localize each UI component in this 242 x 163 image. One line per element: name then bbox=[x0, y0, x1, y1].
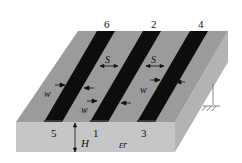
height-label: H bbox=[80, 137, 90, 149]
port-label-3: 3 bbox=[141, 127, 147, 139]
width-label-3: w bbox=[140, 84, 147, 95]
port-label-6: 6 bbox=[104, 18, 110, 30]
port-label-2: 2 bbox=[151, 18, 157, 30]
strip-edge bbox=[44, 120, 62, 122]
width-label-2: w bbox=[81, 104, 88, 115]
strip-edge bbox=[137, 120, 155, 122]
port-label-1: 1 bbox=[93, 127, 99, 139]
spacing-label-1: S bbox=[105, 54, 110, 65]
microstrip-diagram: 6 2 4 5 1 3 S S w w w H εr bbox=[0, 0, 242, 163]
permittivity-label: εr bbox=[119, 139, 127, 150]
spacing-label-2: S bbox=[151, 54, 156, 65]
port-label-5: 5 bbox=[51, 127, 57, 139]
strip-edge bbox=[90, 120, 108, 122]
port-label-4: 4 bbox=[198, 18, 204, 30]
width-label-1: w bbox=[44, 88, 51, 99]
